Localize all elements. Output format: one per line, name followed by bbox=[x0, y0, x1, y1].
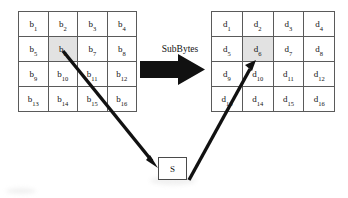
cell-label: b12 bbox=[116, 70, 127, 79]
cell-label: b9 bbox=[29, 70, 37, 79]
state-cell-b2[interactable]: b2 bbox=[49, 12, 79, 37]
cell-label: b6 bbox=[59, 45, 67, 54]
state-cell-b3[interactable]: b3 bbox=[78, 12, 108, 37]
cell-label: d13 bbox=[221, 95, 232, 104]
state-cell-d10[interactable]: d10 bbox=[243, 62, 274, 87]
sbox-node[interactable]: S bbox=[158, 157, 187, 180]
state-cell-d2[interactable]: d2 bbox=[243, 12, 274, 37]
cell-label: d14 bbox=[252, 95, 263, 104]
state-cell-d6[interactable]: d6 bbox=[243, 37, 274, 62]
state-cell-b14[interactable]: b14 bbox=[49, 87, 79, 112]
state-cell-d12[interactable]: d12 bbox=[304, 62, 335, 87]
state-cell-d14[interactable]: d14 bbox=[243, 87, 274, 112]
cell-label: d9 bbox=[223, 70, 231, 79]
state-cell-d4[interactable]: d4 bbox=[304, 12, 335, 37]
state-cell-b12[interactable]: b12 bbox=[108, 62, 138, 87]
state-cell-b7[interactable]: b7 bbox=[78, 37, 108, 62]
block-arrow-subbytes-icon bbox=[140, 54, 205, 85]
cell-label: b1 bbox=[29, 20, 37, 29]
scan-smudge bbox=[6, 188, 36, 194]
cell-label: b7 bbox=[88, 45, 96, 54]
state-cell-b11[interactable]: b11 bbox=[78, 62, 108, 87]
state-cell-b1[interactable]: b1 bbox=[19, 12, 49, 37]
cell-label: d6 bbox=[254, 45, 262, 54]
state-cell-b9[interactable]: b9 bbox=[19, 62, 49, 87]
state-cell-d5[interactable]: d5 bbox=[212, 37, 243, 62]
sbox-label: S bbox=[170, 164, 175, 174]
cell-label: d4 bbox=[315, 20, 323, 29]
state-cell-b6[interactable]: b6 bbox=[49, 37, 79, 62]
state-cell-b15[interactable]: b15 bbox=[78, 87, 108, 112]
cell-label: b13 bbox=[28, 95, 39, 104]
cell-label: b3 bbox=[88, 20, 96, 29]
cell-label: d8 bbox=[315, 45, 323, 54]
cell-label: d3 bbox=[285, 20, 293, 29]
output-state-grid: d1 d2 d3 d4 d5 d6 d7 d8 d9 d10 d11 d12 d… bbox=[211, 11, 335, 112]
state-cell-b4[interactable]: b4 bbox=[108, 12, 138, 37]
cell-label: d10 bbox=[252, 70, 263, 79]
state-cell-d8[interactable]: d8 bbox=[304, 37, 335, 62]
cell-label: d16 bbox=[314, 95, 325, 104]
cell-label: b16 bbox=[116, 95, 127, 104]
state-cell-d11[interactable]: d11 bbox=[274, 62, 305, 87]
state-cell-b13[interactable]: b13 bbox=[19, 87, 49, 112]
diagram-canvas: b1 b2 b3 b4 b5 b6 b7 b8 b9 b10 b11 b12 b… bbox=[0, 0, 348, 198]
subbytes-label: SubBytes bbox=[146, 44, 214, 54]
cell-label: b5 bbox=[29, 45, 37, 54]
input-state-grid: b1 b2 b3 b4 b5 b6 b7 b8 b9 b10 b11 b12 b… bbox=[18, 11, 137, 112]
cell-label: b2 bbox=[59, 20, 67, 29]
state-cell-d13[interactable]: d13 bbox=[212, 87, 243, 112]
cell-label: b15 bbox=[87, 95, 98, 104]
state-cell-d3[interactable]: d3 bbox=[274, 12, 305, 37]
state-cell-d9[interactable]: d9 bbox=[212, 62, 243, 87]
cell-label: b10 bbox=[57, 70, 68, 79]
cell-label: b8 bbox=[118, 45, 126, 54]
state-cell-b16[interactable]: b16 bbox=[108, 87, 138, 112]
cell-label: d11 bbox=[283, 70, 294, 79]
cell-label: d1 bbox=[223, 20, 231, 29]
cell-label: b4 bbox=[118, 20, 126, 29]
cell-label: b11 bbox=[87, 70, 98, 79]
state-cell-d7[interactable]: d7 bbox=[274, 37, 305, 62]
state-cell-d15[interactable]: d15 bbox=[274, 87, 305, 112]
cell-label: d5 bbox=[223, 45, 231, 54]
cell-label: d2 bbox=[254, 20, 262, 29]
cell-label: d12 bbox=[314, 70, 325, 79]
state-cell-b10[interactable]: b10 bbox=[49, 62, 79, 87]
state-cell-d1[interactable]: d1 bbox=[212, 12, 243, 37]
state-cell-d16[interactable]: d16 bbox=[304, 87, 335, 112]
cell-label: d15 bbox=[283, 95, 294, 104]
state-cell-b5[interactable]: b5 bbox=[19, 37, 49, 62]
state-cell-b8[interactable]: b8 bbox=[108, 37, 138, 62]
cell-label: d7 bbox=[285, 45, 293, 54]
cell-label: b14 bbox=[57, 95, 68, 104]
